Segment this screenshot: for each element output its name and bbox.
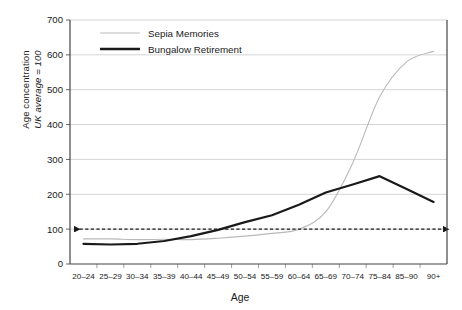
legend-label-2: Bungalow Retirement xyxy=(148,44,242,55)
data-series-group xyxy=(83,51,433,244)
x-tick-label: 65–69 xyxy=(315,272,338,281)
y-axis-title: Age concentration UK average = 100 xyxy=(20,15,43,165)
legend-label-1: Sepia Memories xyxy=(148,28,219,39)
series-line-2 xyxy=(83,176,433,244)
y-axis-ticks-group: 0100200300400500600700 xyxy=(47,14,70,269)
x-axis-title-text: Age xyxy=(213,291,250,303)
chart-container: 0100200300400500600700 20–2425–2930–3435… xyxy=(0,0,462,310)
x-tick-label: 75–84 xyxy=(368,272,391,281)
y-axis-title-line1: Age concentration xyxy=(20,15,32,165)
y-tick-label: 200 xyxy=(47,189,63,200)
axis-lines-group xyxy=(70,20,447,264)
line-chart-svg: 0100200300400500600700 20–2425–2930–3435… xyxy=(0,0,462,310)
x-tick-label: 50–54 xyxy=(234,272,257,281)
x-tick-label: 55–59 xyxy=(261,272,284,281)
x-axis-ticks-group: 20–2425–2930–3435–3940–4445–4950–5455–59… xyxy=(72,264,440,281)
x-tick-label: 90+ xyxy=(427,272,441,281)
x-tick-label: 60–64 xyxy=(288,272,311,281)
series-line-1 xyxy=(83,51,433,239)
y-tick-label: 0 xyxy=(58,258,63,269)
y-tick-label: 500 xyxy=(47,84,63,95)
y-tick-label: 400 xyxy=(47,119,63,130)
x-tick-label: 40–44 xyxy=(180,272,203,281)
y-tick-label: 700 xyxy=(47,14,63,25)
x-axis-title: Age xyxy=(0,291,462,303)
x-tick-label: 25–29 xyxy=(99,272,122,281)
y-tick-label: 300 xyxy=(47,154,63,165)
x-tick-label: 70–74 xyxy=(341,272,364,281)
y-axis-title-line2: UK average = 100 xyxy=(31,15,43,165)
x-tick-label: 35–39 xyxy=(153,272,176,281)
y-tick-label: 600 xyxy=(47,49,63,60)
x-tick-label: 20–24 xyxy=(72,272,95,281)
x-tick-label: 45–49 xyxy=(207,272,230,281)
x-tick-label: 85–90 xyxy=(395,272,418,281)
legend-group: Sepia MemoriesBungalow Retirement xyxy=(100,28,242,55)
gridlines-group xyxy=(70,20,447,229)
x-tick-label: 30–34 xyxy=(126,272,149,281)
y-tick-label: 100 xyxy=(47,224,63,235)
